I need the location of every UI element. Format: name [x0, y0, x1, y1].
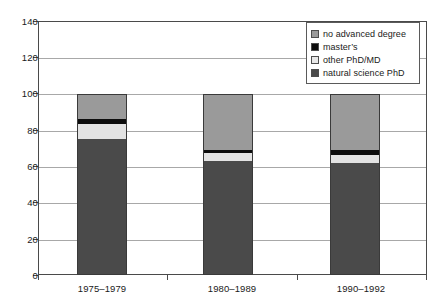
bar-segment-none: [203, 94, 253, 150]
x-tick-mark-0: [38, 275, 39, 280]
stacked-bar-chart: 140 120 100 80 60 40 20 0 1975–1979 1980…: [0, 0, 436, 305]
bar-segment-otherphd: [330, 155, 380, 162]
y-tick-label-80: 80: [8, 125, 38, 136]
legend-item-masters: master’s: [311, 40, 414, 53]
legend-swatch-icon-masters: [311, 43, 319, 51]
y-tick-label-0: 0: [8, 270, 38, 281]
x-axis: 1975–1979 1980–1989 1990–1992: [38, 275, 427, 305]
bar-segment-otherphd: [203, 153, 253, 160]
x-tick-label-1980-1989: 1980–1989: [177, 283, 287, 294]
bar-1975-1979[interactable]: [77, 94, 127, 275]
y-tick-label-60: 60: [8, 161, 38, 172]
legend-item-other-phd-md: other PhD/MD: [311, 53, 414, 66]
y-tick-label-20: 20: [8, 234, 38, 245]
legend-item-natural-science-phd: natural science PhD: [311, 66, 414, 79]
bar-segment-natural: [330, 163, 380, 275]
bar-segment-natural: [203, 161, 253, 275]
legend: no advanced degree master’s other PhD/MD…: [306, 22, 420, 84]
x-tick-mark-3: [426, 275, 427, 280]
legend-label-masters: master’s: [323, 42, 358, 52]
y-tick-label-100: 100: [8, 88, 38, 99]
x-tick-mark-1: [167, 275, 168, 280]
legend-item-no-advanced-degree: no advanced degree: [311, 27, 414, 40]
x-tick-mark-2: [297, 275, 298, 280]
bar-segment-otherphd: [77, 124, 127, 139]
y-tick-label-120: 120: [8, 52, 38, 63]
legend-swatch-icon-natural-science-phd: [311, 69, 319, 77]
legend-label-no-advanced-degree: no advanced degree: [323, 29, 406, 39]
y-tick-label-40: 40: [8, 197, 38, 208]
legend-label-other-phd-md: other PhD/MD: [323, 55, 381, 65]
legend-swatch-icon-other-phd-md: [311, 56, 319, 64]
legend-swatch-icon-no-advanced-degree: [311, 30, 319, 38]
x-tick-label-1990-1992: 1990–1992: [306, 283, 416, 294]
legend-label-natural-science-phd: natural science PhD: [323, 68, 405, 78]
y-tick-label-140: 140: [8, 16, 38, 27]
x-tick-label-1975-1979: 1975–1979: [47, 283, 157, 294]
bar-segment-none: [330, 94, 380, 150]
bar-1980-1989[interactable]: [203, 94, 253, 275]
bar-1990-1992[interactable]: [330, 94, 380, 275]
bar-segment-natural: [77, 139, 127, 275]
bar-segment-none: [77, 94, 127, 119]
y-axis: 140 120 100 80 60 40 20 0: [0, 21, 38, 275]
